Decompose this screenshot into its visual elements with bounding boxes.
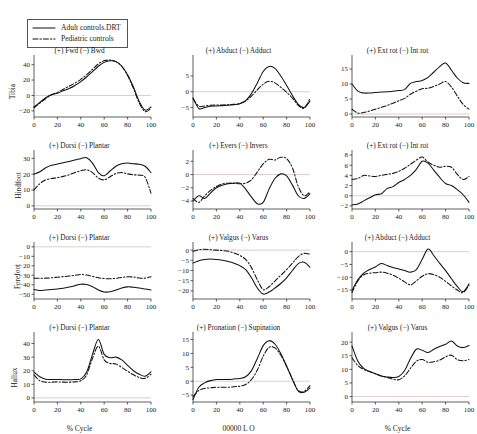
- plot-area: 020406080100−2002040: [0, 44, 159, 139]
- svg-text:5: 5: [186, 72, 190, 80]
- svg-text:8: 8: [345, 151, 349, 159]
- svg-text:40: 40: [77, 213, 85, 221]
- series-dashed: [193, 157, 310, 202]
- svg-text:40: 40: [395, 406, 403, 414]
- svg-text:20: 20: [23, 367, 31, 375]
- svg-text:−10: −10: [337, 274, 348, 282]
- svg-text:30: 30: [23, 354, 31, 362]
- svg-text:−5: −5: [182, 391, 190, 399]
- svg-text:0: 0: [186, 171, 190, 179]
- legend-swatch-solid-icon: [32, 24, 56, 32]
- series-solid: [193, 341, 310, 400]
- svg-text:20: 20: [54, 213, 62, 221]
- svg-text:20: 20: [372, 406, 380, 414]
- svg-text:10: 10: [182, 350, 190, 358]
- plot-area: 020406080100−505: [159, 44, 318, 139]
- plot-area: 020406080100−202468: [318, 139, 477, 231]
- chart-panel-3: (+) Ext rot (−) Int rot02040608010005101…: [318, 44, 477, 139]
- chart-panel-2: (+) Abduct (−) Adduct020406080100−505: [159, 44, 318, 139]
- svg-text:−5: −5: [182, 257, 190, 265]
- svg-text:−30: −30: [19, 272, 30, 280]
- series-dashed: [352, 82, 469, 114]
- svg-text:−2: −2: [341, 202, 349, 210]
- svg-text:15: 15: [341, 352, 349, 360]
- svg-text:80: 80: [442, 303, 450, 311]
- svg-text:15: 15: [341, 65, 349, 73]
- svg-text:−4: −4: [182, 197, 190, 205]
- svg-text:100: 100: [305, 303, 316, 311]
- svg-text:4: 4: [345, 172, 349, 180]
- svg-text:−50: −50: [19, 291, 30, 299]
- svg-text:80: 80: [283, 121, 291, 129]
- svg-text:40: 40: [77, 406, 85, 414]
- svg-text:60: 60: [101, 121, 109, 129]
- plot-area: 020406080100−15−10−50: [318, 231, 477, 321]
- svg-text:10: 10: [341, 80, 349, 88]
- svg-text:0: 0: [350, 303, 354, 311]
- svg-text:0: 0: [191, 121, 195, 129]
- svg-text:20: 20: [372, 213, 380, 221]
- series-solid: [193, 259, 310, 294]
- svg-text:10: 10: [23, 381, 31, 389]
- svg-text:2: 2: [186, 158, 190, 166]
- series-dashed: [34, 275, 151, 279]
- svg-text:80: 80: [442, 213, 450, 221]
- series-solid: [34, 61, 151, 110]
- svg-text:−5: −5: [341, 261, 349, 269]
- legend-swatch-dashed-icon: [32, 35, 56, 43]
- svg-text:20: 20: [54, 121, 62, 129]
- svg-text:0: 0: [186, 88, 190, 96]
- svg-text:20: 20: [372, 303, 380, 311]
- svg-text:2: 2: [345, 182, 349, 190]
- svg-text:60: 60: [419, 303, 427, 311]
- svg-text:80: 80: [283, 303, 291, 311]
- svg-text:0: 0: [191, 406, 195, 414]
- svg-text:−20: −20: [19, 107, 30, 115]
- svg-text:5: 5: [345, 95, 349, 103]
- plot-area: 020406080100010203040: [0, 321, 159, 434]
- svg-text:40: 40: [23, 61, 31, 69]
- plot-area: 0204060801000102030: [0, 139, 159, 231]
- svg-text:20: 20: [23, 171, 31, 179]
- chart-panel-6: (+) Ext rot (−) Int rot020406080100−2024…: [318, 139, 477, 231]
- legend-label-adult: Adult controls.DRT: [61, 24, 121, 32]
- svg-text:80: 80: [442, 406, 450, 414]
- svg-text:40: 40: [236, 303, 244, 311]
- plot-area: 020406080100−4−202: [159, 139, 318, 231]
- chart-panel-5: (+) Evers (−) Invers020406080100−4−202: [159, 139, 318, 231]
- series-dashed: [193, 249, 310, 290]
- series-solid: [352, 63, 469, 93]
- svg-text:100: 100: [146, 121, 157, 129]
- series-dashed: [352, 272, 469, 293]
- svg-text:40: 40: [395, 213, 403, 221]
- svg-text:20: 20: [341, 339, 349, 347]
- svg-text:60: 60: [260, 213, 268, 221]
- series-solid: [193, 174, 310, 205]
- svg-text:−2: −2: [182, 184, 190, 192]
- svg-text:20: 20: [213, 303, 221, 311]
- svg-text:0: 0: [350, 121, 354, 129]
- svg-text:−15: −15: [178, 277, 189, 285]
- svg-text:5: 5: [345, 379, 349, 387]
- svg-text:10: 10: [341, 366, 349, 374]
- svg-text:0: 0: [191, 213, 195, 221]
- legend-entry-pediatric: Pediatric controls: [32, 34, 121, 44]
- chart-panel-11: (+) Pronation (−) Supination00000 L O020…: [159, 321, 318, 434]
- svg-text:100: 100: [146, 213, 157, 221]
- svg-text:0: 0: [345, 248, 349, 256]
- svg-text:40: 40: [395, 121, 403, 129]
- series-solid: [352, 249, 469, 292]
- svg-text:40: 40: [77, 121, 85, 129]
- svg-text:100: 100: [464, 303, 475, 311]
- svg-text:60: 60: [419, 213, 427, 221]
- svg-text:5: 5: [186, 364, 190, 372]
- svg-text:0: 0: [345, 192, 349, 200]
- svg-text:0: 0: [32, 406, 36, 414]
- svg-text:20: 20: [372, 121, 380, 129]
- plot-area: 020406080100−20−15−10−50: [159, 231, 318, 321]
- svg-text:6: 6: [345, 162, 349, 170]
- figure-gait-kinematics: Adult controls.DRT Pediatric controls (+…: [0, 0, 477, 434]
- svg-text:−10: −10: [19, 253, 30, 261]
- svg-text:0: 0: [186, 247, 190, 255]
- svg-text:40: 40: [23, 340, 31, 348]
